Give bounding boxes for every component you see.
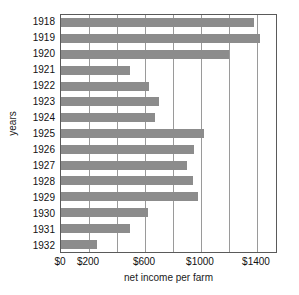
bar-row bbox=[61, 110, 276, 126]
bar bbox=[61, 50, 229, 59]
bar-chart: years 1918191919201921192219231924192519… bbox=[0, 0, 299, 295]
y-tick-label: 1918 bbox=[18, 14, 58, 30]
bar-row bbox=[61, 31, 276, 47]
y-axis-title: years bbox=[7, 94, 18, 154]
bar bbox=[61, 192, 198, 201]
bar-row bbox=[61, 141, 276, 157]
x-tick-label: $600 bbox=[133, 256, 155, 267]
bar bbox=[61, 66, 130, 75]
bar bbox=[61, 129, 204, 138]
bar-row bbox=[61, 94, 276, 110]
y-tick-label: 1919 bbox=[18, 30, 58, 46]
bar-row bbox=[61, 236, 276, 252]
y-tick-label: 1926 bbox=[18, 142, 58, 158]
plot-area bbox=[60, 14, 277, 253]
bar-row bbox=[61, 47, 276, 63]
y-tick-label: 1928 bbox=[18, 173, 58, 189]
bar-row bbox=[61, 205, 276, 221]
x-axis-title: net income per farm bbox=[60, 272, 277, 283]
bar bbox=[61, 34, 260, 43]
bar bbox=[61, 82, 149, 91]
bar bbox=[61, 224, 130, 233]
bar bbox=[61, 113, 155, 122]
y-tick-label: 1924 bbox=[18, 110, 58, 126]
y-tick-label: 1922 bbox=[18, 78, 58, 94]
bar-row bbox=[61, 78, 276, 94]
x-axis-tick-labels: $0$200$600$1000$1400 bbox=[0, 256, 299, 270]
bar-series bbox=[61, 15, 276, 252]
y-tick-label: 1920 bbox=[18, 46, 58, 62]
bar bbox=[61, 161, 187, 170]
y-tick-label: 1930 bbox=[18, 205, 58, 221]
y-axis-tick-labels: 1918191919201921192219231924192519261927… bbox=[18, 14, 58, 253]
y-tick-label: 1923 bbox=[18, 94, 58, 110]
bar bbox=[61, 145, 194, 154]
bar-row bbox=[61, 62, 276, 78]
bar-row bbox=[61, 157, 276, 173]
bar-row bbox=[61, 189, 276, 205]
y-tick-label: 1925 bbox=[18, 126, 58, 142]
y-tick-label: 1932 bbox=[18, 237, 58, 253]
bar-row bbox=[61, 126, 276, 142]
bar bbox=[61, 208, 148, 217]
y-tick-label: 1921 bbox=[18, 62, 58, 78]
bar bbox=[61, 97, 159, 106]
y-tick-label: 1927 bbox=[18, 157, 58, 173]
y-tick-label: 1931 bbox=[18, 221, 58, 237]
x-tick-label: $200 bbox=[77, 256, 99, 267]
x-tick-label: $0 bbox=[54, 256, 65, 267]
bar bbox=[61, 176, 193, 185]
x-tick-label: $1400 bbox=[242, 256, 270, 267]
bar-row bbox=[61, 220, 276, 236]
bar-row bbox=[61, 173, 276, 189]
bar bbox=[61, 240, 97, 249]
bar-row bbox=[61, 15, 276, 31]
bar bbox=[61, 18, 254, 27]
x-tick-label: $1000 bbox=[186, 256, 214, 267]
y-tick-label: 1929 bbox=[18, 189, 58, 205]
